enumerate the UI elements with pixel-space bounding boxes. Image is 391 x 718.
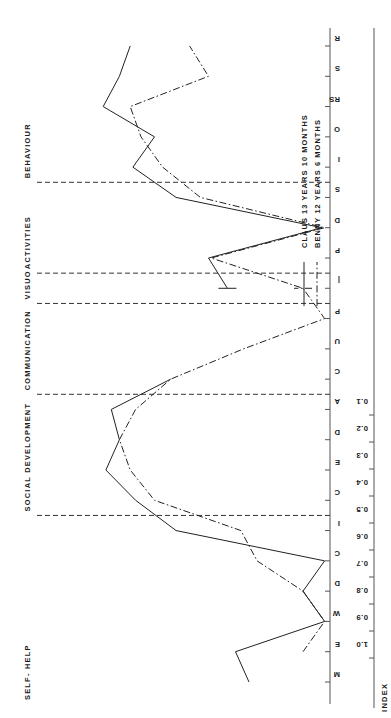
- category-label: A: [334, 397, 340, 406]
- index-tick-label: 0.2: [356, 424, 368, 433]
- category-label: RS: [329, 95, 340, 104]
- section-title: ACTIVITIES: [23, 216, 32, 269]
- category-label: S: [335, 185, 340, 194]
- category-label: P: [335, 307, 340, 316]
- category-label: E: [335, 640, 340, 649]
- chart-text-layer: INDEX1.00.90.80.70.60.50.40.30.20.1MEWDC…: [0, 0, 391, 718]
- category-label: S: [335, 64, 340, 73]
- category-label: M: [333, 670, 340, 679]
- category-label: O: [334, 125, 340, 134]
- section-title: COMMUNICATION: [23, 310, 32, 390]
- category-label: I: [338, 519, 340, 528]
- category-label: I: [338, 155, 340, 164]
- section-title: SOCIAL DEVELOPMENT: [23, 403, 32, 512]
- section-title: BEHAVIOUR: [23, 123, 32, 178]
- legend-label: CLAUS 13 YEARS 10 MONTHS: [300, 114, 309, 248]
- index-tick-label: 0.6: [356, 532, 368, 541]
- section-title: VISUO: [23, 270, 32, 299]
- index-tick-label: 0.9: [356, 613, 368, 622]
- legend-label: BENNY 12 YEARS 6 MONTHS: [313, 119, 322, 248]
- index-tick-label: 0.7: [356, 559, 368, 568]
- index-tick-label: 1.0: [356, 640, 368, 649]
- category-label: R: [334, 34, 340, 43]
- index-tick-label: 0.5: [356, 505, 368, 514]
- category-label: C: [334, 488, 340, 497]
- index-tick-label: 0.1: [356, 397, 368, 406]
- category-label: |: [338, 276, 340, 285]
- chart-figure: INDEX1.00.90.80.70.60.50.40.30.20.1MEWDC…: [0, 0, 391, 718]
- index-tick-label: 0.8: [356, 586, 368, 595]
- category-label: D: [334, 579, 340, 588]
- index-tick-label: 0.4: [356, 478, 368, 487]
- category-label: P: [335, 246, 340, 255]
- category-label: D: [334, 428, 340, 437]
- category-label: E: [335, 458, 340, 467]
- category-label: W: [333, 609, 340, 618]
- category-label: D: [334, 216, 340, 225]
- category-label: U: [334, 337, 340, 346]
- section-title: SELF- HELP: [23, 644, 32, 700]
- category-label: C: [334, 549, 340, 558]
- category-label: C: [334, 367, 340, 376]
- index-axis-title: INDEX: [380, 683, 389, 712]
- index-tick-label: 0.3: [356, 451, 368, 460]
